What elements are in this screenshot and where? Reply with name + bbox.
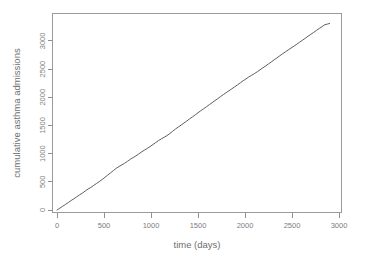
y-tick-label: 3000 [38, 33, 47, 50]
y-tick-label: 1500 [38, 117, 47, 134]
x-tick-label: 3000 [331, 221, 348, 230]
x-tick-label: 2500 [284, 221, 301, 230]
x-tick-label: 2000 [237, 221, 254, 230]
y-tick-label: 2500 [38, 61, 47, 78]
y-tick-label: 2000 [38, 89, 47, 106]
y-tick-label: 1000 [38, 145, 47, 162]
x-tick-label: 1500 [190, 221, 207, 230]
x-tick-label: 500 [98, 221, 111, 230]
x-axis-title: time (days) [174, 239, 221, 250]
y-tick-label: 0 [38, 208, 47, 212]
chart-screenshot: 050010001500200025003000 050010001500200… [0, 0, 367, 260]
x-tick-label: 0 [55, 221, 59, 230]
cumulative-asthma-admissions-chart: 050010001500200025003000 050010001500200… [0, 0, 367, 260]
x-tick-label: 1000 [143, 221, 160, 230]
y-axis-title: cumulative asthma admissions [11, 48, 22, 178]
y-tick-label: 500 [38, 176, 47, 189]
